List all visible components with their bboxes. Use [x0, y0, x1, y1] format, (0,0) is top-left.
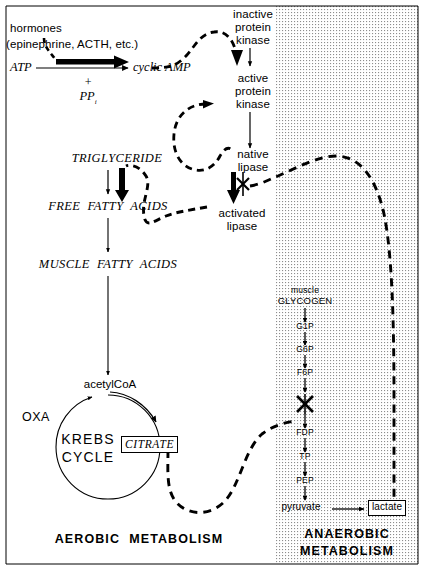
inactive-kinase-line-3: kinase: [236, 34, 270, 46]
anaerobic-metabolism-footer-line-1: ANAEROBIC: [304, 528, 390, 541]
muscle-qualifier-label: muscle: [291, 286, 319, 295]
native-lipase-line-1: native: [237, 148, 268, 160]
pyruvate-label: pyruvate: [281, 502, 320, 513]
f6p-label: F6P: [297, 368, 313, 377]
hormone-stimulation-thick-arrow: [56, 56, 129, 69]
glycogen-label: GLYCOGEN: [278, 296, 333, 306]
aerobic-metabolism-footer: AEROBIC METABOLISM: [55, 533, 224, 546]
tp-label: TP: [299, 452, 310, 461]
hormone-examples-label: (epinephrine, ACTH, etc.): [6, 38, 138, 50]
acetylcoa-label: acetylCoA: [84, 378, 136, 390]
activated-lipase-line-2: lipase: [227, 220, 258, 232]
diagram-vector-layer: [0, 0, 426, 571]
metabolism-diagram: hormones (epinephrine, ACTH, etc.) ATP c…: [0, 0, 426, 571]
triglyceride-label: TRIGLYCERIDE: [72, 152, 163, 165]
plus-sign: +: [84, 76, 92, 89]
active-kinase-line-2: protein: [235, 85, 271, 97]
krebs-cycle-line-2: CYCLE: [62, 450, 115, 465]
inactive-kinase-line-1: inactive: [233, 8, 273, 20]
oxaloacetate-label: OXA: [22, 411, 50, 424]
inactive-kinase-line-2: protein: [235, 21, 271, 33]
activated-lipase-line-1: activated: [219, 207, 266, 219]
fdp-label: FDP: [296, 428, 314, 437]
atp-label: ATP: [10, 61, 32, 74]
active-kinase-line-3: kinase: [236, 98, 270, 110]
free-fatty-acids-label: FREE FATTY ACIDS: [48, 200, 167, 213]
pp-subscript: i: [95, 98, 97, 106]
acetylcoa-to-citrate-arrow: [110, 392, 156, 422]
g1p-label: G1P: [296, 322, 314, 331]
citrate-label: CITRATE: [121, 436, 178, 453]
activated-lipase-to-lipolysis-dashed-path: [126, 165, 207, 223]
cyclic-amp-label: cyclic AMP: [133, 61, 191, 74]
active-kinase-dashed-loop: [174, 100, 232, 170]
anaerobic-metabolism-footer-line-2: METABOLISM: [300, 545, 394, 558]
native-lipase-line-2: lipase: [238, 161, 269, 173]
hormones-label: hormones: [10, 22, 62, 34]
active-kinase-line-1: active: [238, 72, 269, 84]
krebs-cycle-line-1: KREBS: [61, 432, 114, 447]
muscle-fatty-acids-label: MUSCLE FATTY ACIDS: [39, 258, 177, 271]
triglyceride-to-ffa-arrows: [108, 168, 129, 202]
g6p-label: G6P: [296, 345, 314, 354]
pp-text: PP: [79, 89, 94, 103]
lactate-label: lactate: [368, 500, 406, 516]
pyrophosphate-label: PPi: [79, 90, 96, 106]
pep-label: PEP: [296, 476, 314, 485]
